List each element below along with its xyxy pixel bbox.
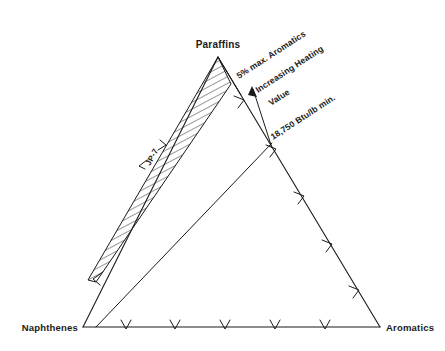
ternary-diagram-figure: Paraffins Naphthenes Aromatics 5% max. A… (0, 0, 445, 351)
jp7-hatched-region (88, 57, 231, 282)
bottom-axis-ticks (121, 320, 330, 329)
increasing-heating-value-arrow (248, 86, 272, 148)
ternary-diagram-svg: Paraffins Naphthenes Aromatics 5% max. A… (0, 0, 445, 351)
bottom-tick-5 (320, 320, 330, 329)
right-tick-5 (349, 286, 359, 298)
vertex-label-aromatics: Aromatics (386, 322, 434, 333)
bottom-tick-3 (220, 320, 230, 329)
annotation-increasing-heating-line1: Increasing Heating (254, 43, 325, 94)
vertex-label-paraffins: Paraffins (196, 39, 241, 50)
right-tick-4 (322, 240, 332, 252)
bottom-tick-4 (270, 320, 280, 329)
right-tick-2 (266, 145, 276, 157)
bottom-tick-1 (121, 320, 131, 329)
spec-lines (96, 57, 272, 327)
bottom-tick-2 (170, 320, 180, 329)
triangle-outline (83, 57, 380, 327)
right-tick-3 (294, 192, 304, 204)
annotation-increasing-heating-line2: Value (267, 87, 292, 108)
vertex-label-naphthenes: Naphthenes (22, 322, 78, 333)
jp7-band-shape (88, 57, 231, 282)
triangle-right-edge (218, 57, 380, 327)
annotation-max-aromatics: 5% max. Aromatics (235, 29, 308, 81)
